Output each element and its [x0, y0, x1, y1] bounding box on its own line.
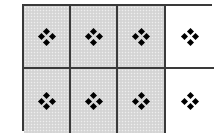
diamond-dot-icon: [186, 103, 193, 110]
diamond-dot-icon: [48, 97, 55, 104]
diamond-dot-icon: [90, 103, 97, 110]
unshaded-cell-r1-c3: [166, 69, 214, 133]
shaded-cell-r0-c2: [118, 6, 166, 69]
diamond-dot-icon: [143, 97, 150, 104]
diamond-dot-icon: [84, 97, 91, 104]
diamond-dot-icon: [186, 38, 193, 45]
shaded-cell-r1-c2: [118, 69, 166, 133]
diamond-dot-icon: [181, 97, 188, 104]
diamond-dot-icon: [137, 103, 144, 110]
diamond-dot-icon: [43, 92, 50, 99]
diamond-dot-icon: [84, 33, 91, 40]
four-diamond-icon: [38, 92, 56, 110]
shaded-cell-r1-c0: [24, 69, 71, 133]
diamond-dot-icon: [37, 33, 44, 40]
diamond-dot-icon: [43, 27, 50, 34]
diamond-dot-icon: [132, 97, 139, 104]
diamond-dot-icon: [192, 97, 199, 104]
diamond-dot-icon: [137, 38, 144, 45]
four-diamond-icon: [85, 28, 103, 46]
diamond-dot-icon: [186, 27, 193, 34]
diamond-dot-icon: [132, 33, 139, 40]
diamond-dot-icon: [43, 38, 50, 45]
diamond-dot-icon: [90, 38, 97, 45]
diamond-dot-icon: [90, 27, 97, 34]
shaded-cell-r0-c0: [24, 6, 71, 69]
four-diamond-icon: [132, 28, 150, 46]
four-diamond-icon: [132, 92, 150, 110]
four-diamond-icon: [38, 28, 56, 46]
diamond-dot-icon: [95, 97, 102, 104]
diamond-dot-icon: [43, 103, 50, 110]
shaded-cell-r0-c1: [71, 6, 118, 69]
unshaded-cell-r0-c3: [166, 6, 214, 69]
diamond-dot-icon: [186, 92, 193, 99]
fraction-grid: [22, 4, 212, 131]
diamond-dot-icon: [90, 92, 97, 99]
diamond-dot-icon: [192, 33, 199, 40]
diamond-dot-icon: [37, 97, 44, 104]
diamond-dot-icon: [137, 92, 144, 99]
diamond-dot-icon: [137, 27, 144, 34]
four-diamond-icon: [181, 92, 199, 110]
diamond-dot-icon: [95, 33, 102, 40]
four-diamond-icon: [85, 92, 103, 110]
diamond-dot-icon: [48, 33, 55, 40]
shaded-cell-r1-c1: [71, 69, 118, 133]
four-diamond-icon: [181, 28, 199, 46]
diamond-dot-icon: [181, 33, 188, 40]
diamond-dot-icon: [143, 33, 150, 40]
